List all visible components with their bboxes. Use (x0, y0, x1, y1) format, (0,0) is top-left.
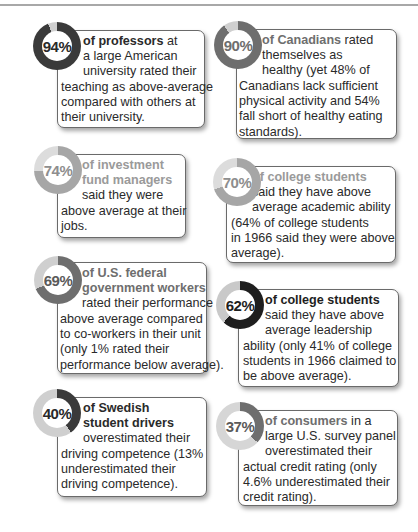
stat-headline: of Swedish (83, 401, 202, 416)
percent-label: 37% (226, 418, 255, 435)
donut-chart-90: 90% (214, 21, 262, 69)
percent-label: 94% (43, 38, 72, 55)
percent-label: 69% (44, 272, 73, 289)
stat-headline: of consumers (265, 414, 348, 428)
stat-headline: of college students (252, 170, 391, 185)
stat-headline: of investment (82, 158, 181, 173)
donut-chart-37: 37% (216, 402, 264, 450)
donut-chart-62: 62% (216, 281, 264, 329)
stat-headline: of professors (83, 34, 163, 48)
stat-headline: of U.S. federal (82, 266, 202, 281)
percent-label: 40% (43, 405, 72, 422)
stat-headline: of college students (265, 293, 394, 308)
donut-chart-40: 40% (33, 389, 81, 437)
stat-headline: of Canadians (262, 33, 341, 47)
stat-card-text: of professors at a large American univer… (83, 34, 200, 80)
percent-label: 90% (224, 37, 253, 54)
percent-label: 62% (226, 297, 255, 314)
percent-label: 74% (44, 162, 73, 179)
percent-label: 70% (223, 174, 252, 191)
donut-chart-74: 74% (34, 146, 82, 194)
top-divider (0, 4, 418, 6)
donut-chart-69: 69% (34, 256, 82, 304)
donut-chart-94: 94% (33, 22, 81, 70)
donut-chart-70: 70% (213, 158, 261, 206)
